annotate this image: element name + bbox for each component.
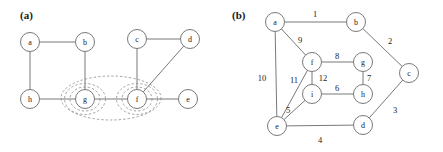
edge-weight-d-e: 4	[318, 135, 323, 145]
node-label-f: f	[311, 58, 314, 67]
node-g[interactable]: g	[76, 90, 95, 109]
node-label-f: f	[136, 95, 139, 104]
node-label-d: d	[361, 121, 365, 130]
edge-weight-i-h: 6	[335, 83, 339, 93]
edge-weight-e-f: 11	[290, 75, 298, 85]
panel-b-label: (b)	[232, 9, 245, 21]
node-e[interactable]: e	[179, 90, 198, 109]
edge-weight-c-d: 3	[393, 105, 397, 115]
node-label-b: b	[83, 38, 87, 47]
edge-weight-e-i: 5	[286, 105, 290, 115]
edge-a-e	[275, 32, 277, 117]
panel-a-node-group: abcdhgfe	[21, 30, 200, 109]
panel-a-graph: (a) abcdhgfe	[0, 0, 222, 152]
node-d[interactable]: d	[354, 116, 373, 135]
node-label-h: h	[361, 90, 365, 99]
edge-weight-f-i: 12	[319, 73, 328, 83]
node-d[interactable]: d	[181, 30, 200, 49]
node-h[interactable]: h	[21, 90, 40, 109]
node-a[interactable]: a	[266, 13, 285, 32]
node-h[interactable]: h	[354, 85, 373, 104]
node-label-g: g	[83, 95, 87, 104]
node-c[interactable]: c	[128, 30, 147, 49]
node-f[interactable]: f	[303, 53, 322, 72]
panel-b-edge-group	[275, 22, 403, 126]
edge-weight-a-f: 9	[298, 35, 302, 45]
node-g[interactable]: g	[354, 53, 373, 72]
figure-container: (a) abcdhgfe (b) 123456789101112 abcdefg…	[0, 0, 443, 152]
node-label-e: e	[186, 95, 190, 104]
edge-weight-f-g: 8	[335, 51, 339, 61]
panel-a-svg: abcdhgfe	[0, 0, 222, 152]
node-i[interactable]: i	[303, 85, 322, 104]
node-a[interactable]: a	[21, 33, 40, 52]
node-label-c: c	[407, 69, 411, 78]
node-c[interactable]: c	[400, 64, 419, 83]
edge-d-e	[287, 125, 354, 126]
node-label-a: a	[273, 18, 277, 27]
node-b[interactable]: b	[347, 13, 366, 32]
node-b[interactable]: b	[76, 33, 95, 52]
node-e[interactable]: e	[268, 117, 287, 136]
edge-c-d	[369, 80, 402, 118]
node-label-h: h	[28, 95, 32, 104]
panel-b-svg: 123456789101112 abcdefghi	[222, 0, 443, 152]
edge-weight-b-c: 2	[388, 36, 392, 46]
edge-weight-g-h: 7	[367, 73, 371, 83]
edge-weight-a-e: 10	[258, 73, 267, 83]
node-label-a: a	[28, 38, 32, 47]
panel-b-graph: (b) 123456789101112 abcdefghi	[222, 0, 443, 152]
node-label-c: c	[135, 35, 139, 44]
node-label-d: d	[188, 35, 192, 44]
panel-a-label: (a)	[20, 9, 33, 21]
panel-b-node-group: abcdefghi	[266, 13, 419, 136]
node-f[interactable]: f	[128, 90, 147, 109]
node-label-b: b	[354, 18, 358, 27]
node-label-e: e	[275, 122, 279, 131]
edge-weight-a-b: 1	[313, 9, 317, 19]
edge-d-f	[143, 46, 183, 92]
node-label-g: g	[361, 58, 365, 67]
panel-a-edge-group	[30, 39, 184, 99]
